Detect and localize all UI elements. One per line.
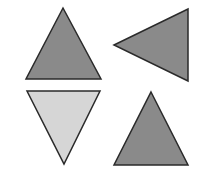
triangles-figure bbox=[0, 0, 201, 181]
